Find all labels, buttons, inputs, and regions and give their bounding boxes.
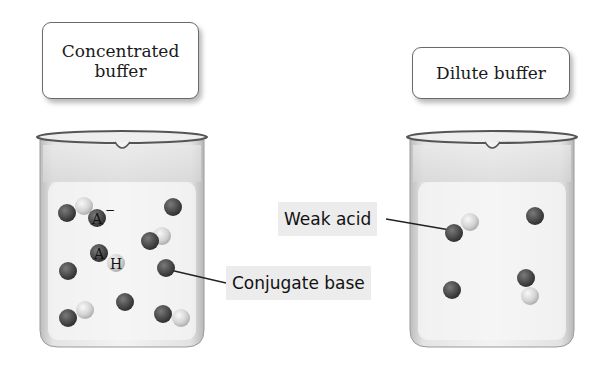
hydrogen-atom [521, 287, 539, 305]
anion-charge: − [105, 203, 115, 217]
conjugate-base-atom [157, 259, 175, 277]
acid-h-symbol: H [110, 256, 122, 272]
anion-symbol: A [91, 211, 103, 227]
anion-atom [517, 269, 535, 287]
anion-atom [116, 293, 134, 311]
hydrogen-atom [172, 309, 190, 327]
anion-atom [526, 207, 544, 225]
anion-atom [59, 262, 77, 280]
conjugate-base-callout: Conjugate base [226, 266, 371, 300]
anion-atom [58, 204, 76, 222]
weak-acid-callout-text: Weak acid [284, 209, 371, 229]
anion-atom [443, 281, 461, 299]
weak-acid-callout: Weak acid [278, 202, 377, 236]
hydrogen-atom [76, 301, 94, 319]
conjugate-base-callout-text: Conjugate base [232, 273, 365, 293]
hydrogen-atom [461, 213, 479, 231]
acid-a-symbol: A [93, 246, 105, 262]
anion-atom [154, 305, 172, 323]
anion-atom [164, 198, 182, 216]
beaker-scene: A − A H [0, 0, 613, 370]
weak-acid-atom [445, 224, 463, 242]
dilute-beaker [407, 131, 577, 347]
anion-atom [141, 232, 159, 250]
anion-atom [59, 309, 77, 327]
